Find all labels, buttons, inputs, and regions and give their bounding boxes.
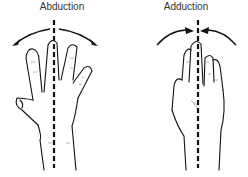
abduction-hand-illustration [0, 0, 124, 177]
adduction-panel: Adduction [124, 0, 248, 177]
abduction-panel: Abduction [0, 0, 124, 177]
adduction-hand-illustration [124, 0, 248, 177]
adduction-arrows-icon [157, 30, 236, 45]
